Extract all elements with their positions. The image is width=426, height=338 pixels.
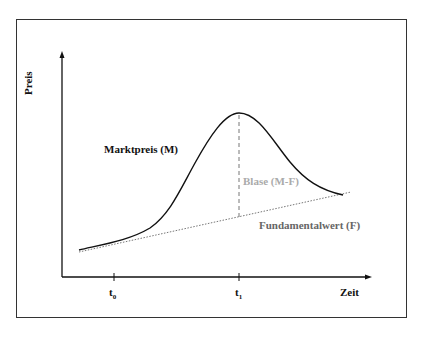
bubble-chart bbox=[0, 0, 426, 338]
market-price-label: Marktpreis (M) bbox=[104, 143, 178, 155]
y-axis-label: Preis bbox=[22, 71, 34, 95]
y-axis-arrow-icon bbox=[60, 51, 65, 58]
bubble-label: Blase (M-F) bbox=[243, 175, 299, 187]
fundamental-label: Fundamentalwert (F) bbox=[259, 219, 360, 231]
x-axis-label: Zeit bbox=[340, 286, 359, 298]
tick-label-t0: t0 bbox=[109, 286, 116, 301]
x-axis-arrow-icon bbox=[365, 275, 372, 280]
tick-label-t1: t1 bbox=[235, 286, 242, 301]
